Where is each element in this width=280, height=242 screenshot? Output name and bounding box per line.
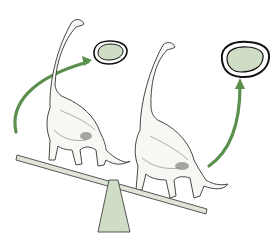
right-arrow [209,78,245,166]
large-oval [222,42,269,77]
small-oval [94,41,127,64]
seesaw-illustration [0,0,280,242]
illustration-svg [0,0,280,242]
right-dinosaur [135,43,228,198]
